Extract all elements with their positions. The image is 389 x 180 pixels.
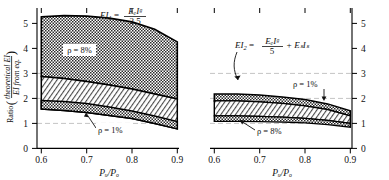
leader-line-rho-1pct-left bbox=[86, 113, 96, 128]
y-axis-paren-close: ) bbox=[3, 51, 18, 55]
y-axis-title-denominator: EI from eq. bbox=[12, 59, 21, 96]
y-tick-label-0: 0 bbox=[23, 144, 28, 154]
label-rho-8pct-left-text: ρ = 8% bbox=[67, 45, 92, 55]
x-tick-label-r2: 0.8 bbox=[299, 155, 311, 165]
formula-ei2-tail: + EₛIₛ bbox=[286, 40, 310, 50]
label-rho-1pct-right: ρ = 1% bbox=[291, 78, 329, 101]
y-ticks-left bbox=[32, 23, 37, 148]
label-rho-1pct-right-text: ρ = 1% bbox=[293, 79, 318, 89]
formula-ei2-numerator: EₑIᵍ bbox=[264, 36, 279, 46]
x-tick-label-r1: 0.7 bbox=[254, 155, 266, 165]
y-axis-title-prefix: Ratio bbox=[6, 106, 15, 123]
chart-panel-right: 0 1 2 3 4 5 0.6 0.7 0.8 0.9 Pᵤ/Pₒ EI2 = … bbox=[193, 0, 389, 180]
x-tick-label-1: 0.7 bbox=[81, 155, 93, 165]
y-tick-label-r5: 5 bbox=[361, 19, 366, 29]
y-ticks-right bbox=[352, 23, 357, 148]
y-tick-label-2: 2 bbox=[23, 94, 28, 104]
y-tick-label-4: 4 bbox=[23, 44, 28, 54]
x-axis-title-left: Pᵤ/Pₒ bbox=[98, 168, 119, 178]
formula-ei1-denominator: 2.5 bbox=[129, 16, 141, 26]
y-tick-label-1: 1 bbox=[23, 119, 28, 129]
formula-ei2-denominator: 5 bbox=[270, 46, 275, 56]
x-tick-label-r3: 0.9 bbox=[344, 155, 356, 165]
y-tick-label-r2: 2 bbox=[361, 94, 366, 104]
label-rho-8pct-right-text: ρ = 8% bbox=[257, 126, 282, 136]
y-tick-label-r0: 0 bbox=[361, 144, 366, 154]
formula-ei1-numerator: EₑIᵍ bbox=[127, 6, 142, 16]
y-axis-title-numerator: theoretical EI bbox=[3, 55, 12, 99]
y-tick-label-r4: 4 bbox=[361, 44, 366, 54]
y-tick-label-5: 5 bbox=[23, 19, 28, 29]
y-tick-label-r1: 1 bbox=[361, 119, 366, 129]
leader-line-ei2 bbox=[234, 52, 238, 80]
x-tick-label-2: 0.8 bbox=[126, 155, 138, 165]
y-axis-paren-open: ( bbox=[3, 101, 18, 105]
label-rho-8pct-left: ρ = 8% bbox=[63, 44, 96, 56]
leader-arrow-ei2 bbox=[234, 76, 240, 80]
x-axis-title-text-right: Pᵤ/Pₒ bbox=[271, 168, 292, 178]
y-axis-title-left: Ratio ( theoretical EI EI from eq. ) bbox=[3, 51, 21, 123]
x-axis-title-right: Pᵤ/Pₒ bbox=[271, 168, 292, 178]
x-tick-label-3: 0.9 bbox=[171, 155, 183, 165]
label-rho-1pct-left-text: ρ = 1% bbox=[98, 125, 123, 135]
y-tick-label-r3: 3 bbox=[361, 69, 366, 79]
figure-root: 0 1 2 3 4 5 0.6 0.7 0.8 0.9 Pᵤ/Pₒ Ratio … bbox=[0, 0, 389, 180]
right-chart-svg: 0 1 2 3 4 5 0.6 0.7 0.8 0.9 Pᵤ/Pₒ EI2 = … bbox=[193, 0, 389, 180]
left-chart-svg: 0 1 2 3 4 5 0.6 0.7 0.8 0.9 Pᵤ/Pₒ Ratio … bbox=[0, 0, 196, 180]
y-tick-label-3: 3 bbox=[23, 69, 28, 79]
formula-ei2-lhs: EI2 = bbox=[234, 40, 254, 51]
formula-ei1-lhs: EI1 = bbox=[99, 10, 119, 21]
chart-panel-left: 0 1 2 3 4 5 0.6 0.7 0.8 0.9 Pᵤ/Pₒ Ratio … bbox=[0, 0, 196, 180]
x-tick-label-r0: 0.6 bbox=[208, 155, 220, 165]
x-tick-label-0: 0.6 bbox=[35, 155, 47, 165]
x-axis-title-text: Pᵤ/Pₒ bbox=[98, 168, 119, 178]
